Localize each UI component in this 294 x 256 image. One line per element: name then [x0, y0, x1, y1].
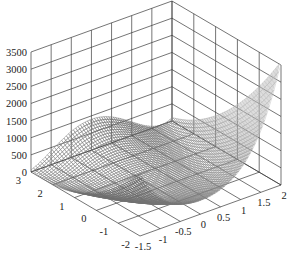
surface-patch	[85, 178, 89, 181]
surface-patch	[70, 172, 74, 175]
surface-patch	[89, 154, 93, 158]
surface-patch	[85, 167, 89, 170]
surface-patch	[45, 172, 49, 175]
surface-patch	[84, 147, 88, 151]
surface-patch	[95, 160, 99, 164]
surface-patch	[80, 143, 84, 147]
surface-patch	[80, 157, 84, 161]
surface-patch	[124, 176, 128, 179]
surface-patch	[45, 159, 49, 163]
surface-patch	[59, 145, 63, 150]
y-tick-label: 1	[59, 201, 64, 212]
surface-patch	[56, 147, 60, 152]
surface-patch	[85, 154, 89, 158]
surface-patch	[120, 132, 124, 134]
surface-patch	[94, 176, 98, 179]
surface-patch	[78, 129, 82, 133]
surface-patch	[101, 160, 105, 163]
surface-patch	[69, 148, 73, 152]
surface-patch	[93, 158, 97, 162]
surface-patch	[118, 130, 122, 132]
surface-patch	[70, 168, 74, 172]
surface-patch	[38, 162, 42, 166]
surface-patch	[56, 170, 60, 173]
x-tick-label: 2	[281, 190, 286, 201]
surface-patch	[68, 152, 72, 156]
surface-patch	[41, 169, 45, 172]
wall-grid-line	[172, 70, 281, 134]
y-tick-label: -1	[99, 226, 108, 237]
surface-patch	[104, 181, 108, 184]
surface-patch	[63, 145, 67, 150]
wall-grid-line	[172, 35, 281, 99]
surface-patch	[58, 150, 62, 155]
surface-patch	[106, 169, 110, 172]
surface-patch	[108, 168, 112, 171]
surface-patch	[114, 173, 118, 176]
surface-patch	[89, 140, 93, 144]
surface-patch	[90, 175, 94, 178]
surface-patch	[104, 170, 108, 173]
surface-patch	[108, 171, 112, 174]
surface-patch	[76, 126, 80, 130]
surface-patch	[43, 157, 47, 161]
surface-patch	[76, 170, 80, 173]
surface-patch	[51, 170, 55, 173]
surface-patch	[95, 157, 99, 161]
x-tick-label: 0	[201, 219, 206, 230]
surface-patch	[65, 143, 69, 148]
wall-grid-line	[31, 70, 172, 121]
surface-patch	[101, 171, 105, 174]
surface-patch	[52, 147, 56, 152]
surface-patch	[67, 150, 71, 154]
surface-patch	[110, 169, 114, 172]
wall-grid-line	[31, 18, 172, 69]
x-tick-label: -0.5	[175, 226, 192, 237]
surface-patch	[96, 162, 100, 165]
surface-patch	[55, 156, 59, 160]
surface-patch	[115, 177, 119, 180]
surface-patch	[66, 182, 70, 184]
surface-patch	[63, 164, 67, 168]
z-tick-label: 500	[11, 150, 27, 161]
z-tick-label: 1500	[6, 116, 27, 127]
surface-patch	[138, 174, 142, 179]
surface-patch	[55, 174, 59, 177]
z-tick-label: 0	[22, 167, 27, 178]
surface-patch	[104, 117, 108, 120]
surface-patch	[251, 144, 255, 150]
surface-patch	[36, 164, 40, 168]
surface-patch	[93, 181, 97, 184]
surface-patch	[54, 168, 58, 172]
surface-patch	[253, 138, 257, 144]
surface-patch	[59, 177, 63, 180]
surface-patch	[84, 177, 88, 180]
surface-patch	[65, 162, 69, 166]
surface-patch	[74, 172, 78, 175]
surface-patch	[82, 141, 86, 145]
surface-patch	[103, 162, 107, 165]
surface-patch	[60, 152, 64, 156]
surface-patch	[64, 136, 68, 141]
surface-patch	[97, 159, 101, 162]
surface-patch	[51, 157, 55, 161]
surface-patch	[101, 163, 105, 166]
surface-patch	[37, 173, 41, 176]
surface-patch	[72, 181, 76, 184]
surface-patch	[96, 177, 100, 180]
surface-patch	[267, 99, 271, 109]
surface-patch	[79, 177, 83, 180]
surface-patch	[65, 148, 69, 152]
surface-patch	[61, 147, 65, 152]
surface-patch	[96, 180, 100, 183]
surface-patch	[107, 174, 111, 177]
surface-patch	[47, 171, 51, 174]
surface-patch	[71, 146, 75, 150]
surface-patch	[82, 159, 86, 163]
surface-patch	[58, 154, 62, 158]
surface-patch	[113, 168, 117, 171]
surface-patch	[120, 172, 124, 175]
surface-patch	[53, 154, 57, 158]
surface-patch	[67, 164, 71, 168]
surface-patch	[81, 138, 85, 142]
